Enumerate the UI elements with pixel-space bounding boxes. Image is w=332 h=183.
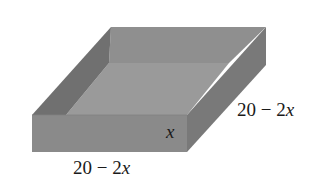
- open-box-diagram: [0, 0, 332, 183]
- height-label: x: [166, 122, 174, 141]
- length-label-expr: 20 − 2: [73, 157, 122, 178]
- front-face: [32, 115, 187, 152]
- length-label-var: x: [122, 157, 130, 178]
- width-label-expr: 20 − 2: [237, 99, 286, 120]
- width-label: 20 − 2x: [237, 100, 294, 119]
- length-label: 20 − 2x: [73, 158, 130, 177]
- width-label-var: x: [286, 99, 294, 120]
